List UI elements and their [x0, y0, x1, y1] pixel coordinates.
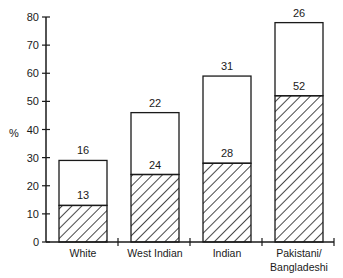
- y-axis-label: %: [9, 127, 19, 139]
- category-label: White: [70, 247, 97, 259]
- category-label: West Indian: [127, 247, 182, 259]
- bar-group: 2652Pakistani/Bangladeshi: [270, 7, 328, 273]
- y-tick-label: 50: [27, 95, 39, 107]
- category-label: Indian: [213, 247, 242, 259]
- y-tick-label: 0: [33, 236, 39, 248]
- lower-value-label: 13: [77, 189, 89, 201]
- category-label: Bangladeshi: [270, 261, 328, 273]
- lower-value-label: 24: [149, 159, 161, 171]
- y-tick-label: 80: [27, 11, 39, 23]
- bar-lower-segment: [203, 163, 251, 242]
- y-tick-label: 40: [27, 124, 39, 136]
- bar-lower-segment: [275, 96, 323, 242]
- bar-lower-segment: [131, 175, 179, 243]
- y-axis: 01020304050607080: [27, 11, 50, 248]
- upper-value-label: 26: [293, 7, 305, 19]
- bar-group: 1613White: [59, 144, 107, 259]
- y-tick-label: 70: [27, 39, 39, 51]
- stacked-bar-chart: 01020304050607080 1613White2224West Indi…: [0, 0, 343, 278]
- upper-value-label: 16: [77, 144, 89, 156]
- bars: 1613White2224West Indian3128Indian2652Pa…: [59, 7, 328, 273]
- bar-group: 2224West Indian: [127, 97, 182, 259]
- upper-value-label: 22: [149, 97, 161, 109]
- bar-lower-segment: [59, 205, 107, 242]
- upper-value-label: 31: [221, 60, 233, 72]
- bar-group: 3128Indian: [203, 60, 251, 259]
- lower-value-label: 28: [221, 147, 233, 159]
- lower-value-label: 52: [293, 80, 305, 92]
- y-tick-label: 20: [27, 180, 39, 192]
- category-label: Pakistani/: [276, 247, 322, 259]
- y-tick-label: 60: [27, 67, 39, 79]
- y-tick-label: 30: [27, 152, 39, 164]
- y-tick-label: 10: [27, 208, 39, 220]
